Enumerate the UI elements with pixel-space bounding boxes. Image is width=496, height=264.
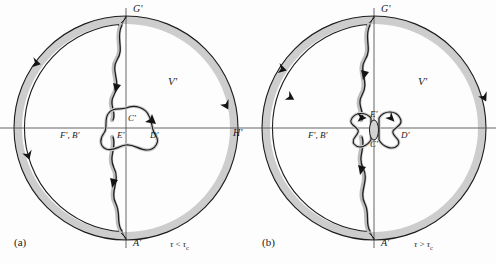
label-region-v-prime-a: V' [168,76,177,87]
condition-label-b: τ > τc [414,239,433,251]
label-point-g-prime-a: G' [133,4,142,14]
label-point-d-prime-a: D' [150,131,158,140]
panel-caption-a: (a) [14,236,26,248]
label-point-a-prime-b: A' [381,238,389,248]
label-point-e-prime-b: E' [370,110,377,119]
panel-a: G' A' H' F', B' C' E' D' V' (a) τ < τc [0,0,248,264]
central-ellipse-b [370,120,379,140]
label-point-a-prime-a: A' [133,238,141,248]
label-point-c-prime-a: C' [128,114,136,123]
label-point-g-prime-b: G' [381,4,390,14]
flow-arrow-inner-left-b [284,91,297,104]
label-point-e-prime-a: E' [117,131,124,140]
label-region-v-prime-b: V' [418,76,427,87]
label-point-c-prime-b: C' [370,140,378,149]
condition-label-a: τ < τc [170,239,189,251]
label-point-d-prime-b: D' [401,131,409,140]
label-point-f-b-prime-a: F', B' [60,131,79,140]
panel-caption-b: (b) [262,236,275,248]
panel-b-drawing [248,0,496,264]
panel-b: G' A' F', B' E' C' D' V' (b) τ > τc [248,0,496,264]
label-point-f-b-prime-b: F', B' [308,131,327,140]
label-point-h-prime-a: H' [233,128,242,138]
figure-container: G' A' H' F', B' C' E' D' V' (a) τ < τc [0,0,496,264]
